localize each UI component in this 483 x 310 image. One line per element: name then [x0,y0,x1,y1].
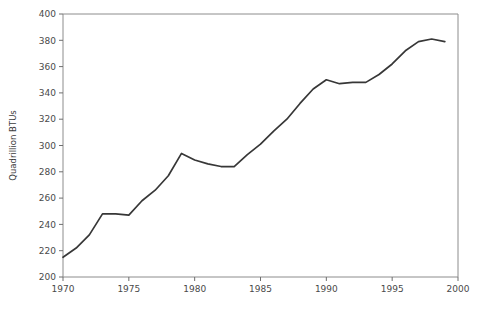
y-tick-label: 240 [39,220,56,230]
y-axis: 200220240260280300320340360380400 [39,9,63,282]
x-tick-label: 1980 [183,284,206,294]
y-axis-title: Quadrillion BTUs [8,110,18,181]
x-tick-label: 1975 [117,284,140,294]
y-tick-label: 220 [39,246,56,256]
line-chart: 200220240260280300320340360380400 197019… [0,0,483,310]
y-tick-label: 280 [39,167,56,177]
y-tick-label: 340 [39,88,56,98]
axis-frame [63,14,458,277]
x-tick-label: 1990 [315,284,338,294]
y-tick-label: 260 [39,193,56,203]
y-tick-label: 320 [39,114,56,124]
x-axis: 1970197519801985199019952000 [52,277,470,294]
x-tick-label: 1995 [381,284,404,294]
x-tick-label: 1970 [52,284,75,294]
y-tick-label: 380 [39,36,56,46]
data-series-line [63,39,445,257]
x-tick-label: 1985 [249,284,272,294]
plot-frame [63,14,458,277]
y-tick-label: 360 [39,62,56,72]
series-group [63,39,445,257]
chart-figure: 200220240260280300320340360380400 197019… [0,0,483,310]
y-tick-label: 200 [39,272,56,282]
y-tick-label: 400 [39,9,56,19]
x-tick-label: 2000 [447,284,470,294]
y-tick-label: 300 [39,141,56,151]
